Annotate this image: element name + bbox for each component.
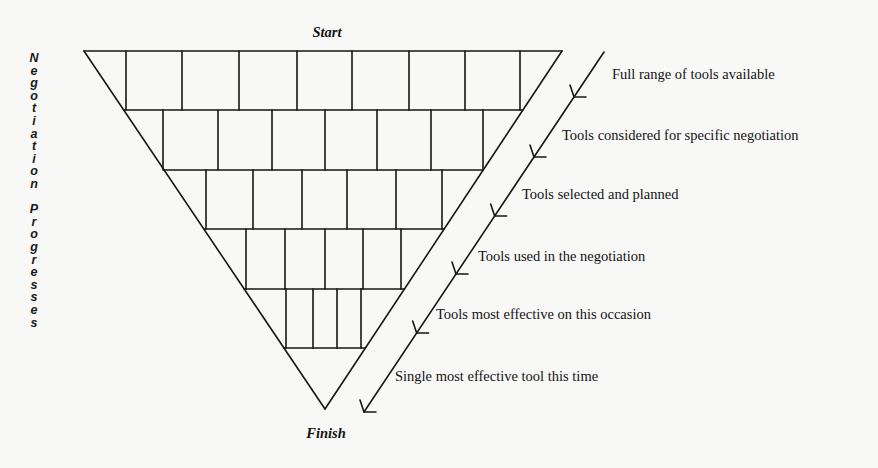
progression-line xyxy=(364,52,604,412)
funnel-triangle xyxy=(84,51,562,409)
side-label-letter: s xyxy=(31,316,38,330)
stage-label: Tools considered for specific negotiatio… xyxy=(562,127,799,143)
stage-label: Tools used in the negotiation xyxy=(478,248,646,264)
funnel-diagram: Start Finish NegotiationProgresses Full … xyxy=(0,0,878,468)
negotiation-progresses-label: NegotiationProgresses xyxy=(29,51,39,330)
funnel-left-edge xyxy=(84,51,325,409)
progression-arrow xyxy=(360,52,604,412)
stage-label: Tools selected and planned xyxy=(522,186,679,202)
funnel-right-edge xyxy=(325,51,562,409)
finish-label: Finish xyxy=(305,425,346,441)
stage-label: Single most effective tool this time xyxy=(395,368,598,384)
diagram-canvas: Start Finish NegotiationProgresses Full … xyxy=(0,0,878,468)
stage-label: Tools most effective on this occasion xyxy=(436,306,652,322)
stage-labels: Full range of tools availableTools consi… xyxy=(395,66,799,384)
stage-label: Full range of tools available xyxy=(612,66,775,82)
start-label: Start xyxy=(312,24,342,40)
side-label-letter: n xyxy=(30,177,38,191)
